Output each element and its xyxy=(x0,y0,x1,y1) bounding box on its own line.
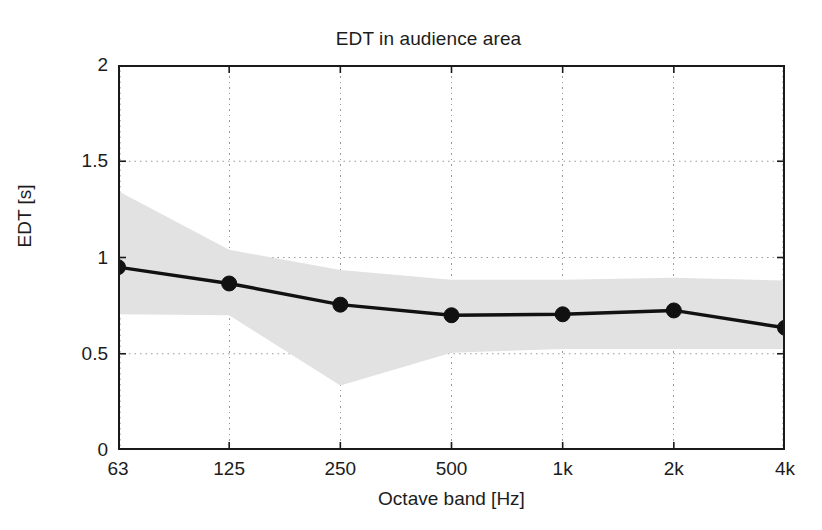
chart-title: EDT in audience area xyxy=(0,28,822,50)
y-tick-2: 1 xyxy=(97,247,108,269)
y-axis-tick-labels: 0 0.5 1 1.5 2 xyxy=(60,65,108,450)
plot-area xyxy=(118,65,785,450)
chart-figure: EDT in audience area EDT [s] 0 0.5 1 1.5… xyxy=(0,0,822,530)
x-tick-500: 500 xyxy=(436,458,468,480)
x-tick-1k: 1k xyxy=(553,458,573,480)
x-axis-tick-labels: 63 125 250 500 1k 2k 4k xyxy=(118,458,785,484)
x-tick-4k: 4k xyxy=(775,458,795,480)
y-tick-0: 0 xyxy=(97,439,108,461)
x-tick-2k: 2k xyxy=(664,458,684,480)
x-axis-label: Octave band [Hz] xyxy=(118,488,785,510)
x-tick-125: 125 xyxy=(213,458,245,480)
x-tick-63: 63 xyxy=(107,458,128,480)
x-tick-250: 250 xyxy=(324,458,356,480)
y-tick-3: 1.5 xyxy=(82,150,108,172)
y-tick-1: 0.5 xyxy=(82,343,108,365)
y-axis-label: EDT [s] xyxy=(14,146,36,286)
plot-canvas xyxy=(118,65,785,450)
y-tick-4: 2 xyxy=(97,54,108,76)
